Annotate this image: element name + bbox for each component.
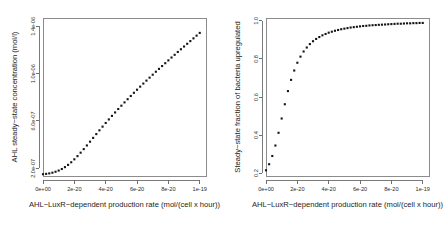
- data-point: [397, 23, 399, 25]
- data-point: [98, 129, 100, 131]
- data-point: [365, 25, 367, 27]
- data-point: [186, 43, 188, 45]
- data-point: [315, 38, 317, 40]
- right-plot-frame: [266, 18, 429, 176]
- left-data-series: [42, 32, 201, 175]
- data-point: [296, 62, 298, 64]
- data-point: [86, 144, 88, 146]
- left-x-tick-label: 0e+00: [35, 186, 51, 192]
- data-point: [422, 22, 424, 24]
- data-point: [287, 90, 289, 92]
- right-x-tick-label: 1e-19: [416, 186, 430, 192]
- data-point: [149, 77, 151, 79]
- data-point: [64, 166, 66, 168]
- data-point: [108, 118, 110, 120]
- data-point: [375, 24, 377, 26]
- right-x-tick-label: 4e-20: [322, 186, 336, 192]
- left-x-tick-label: 1e-19: [193, 186, 207, 192]
- data-point: [48, 172, 50, 174]
- data-point: [412, 22, 414, 24]
- right-y-tick-label: 1.0: [253, 17, 259, 25]
- data-point: [61, 168, 63, 170]
- data-point: [318, 36, 320, 38]
- data-point: [321, 34, 323, 36]
- left-plot-svg: 0e+002e-204e-206e-208e-201e-192.0e-076.0…: [0, 0, 223, 225]
- data-point: [117, 108, 119, 110]
- left-y-tick-label: 1.4e-06: [30, 17, 36, 36]
- data-point: [378, 24, 380, 26]
- right-y-tick-label: 0.4: [253, 131, 259, 139]
- data-point: [359, 25, 361, 27]
- right-x-tick-label: 2e-20: [290, 186, 304, 192]
- data-point: [325, 33, 327, 35]
- data-point: [387, 23, 389, 25]
- data-point: [393, 23, 395, 25]
- data-point: [51, 172, 53, 174]
- right-y-tick-label: 0.8: [253, 55, 259, 63]
- data-point: [177, 51, 179, 53]
- data-point: [70, 161, 72, 163]
- data-point: [403, 22, 405, 24]
- data-point: [306, 46, 308, 48]
- data-point: [130, 95, 132, 97]
- data-point: [415, 22, 417, 24]
- data-point: [390, 23, 392, 25]
- data-point: [127, 98, 129, 100]
- data-point: [89, 141, 91, 143]
- data-point: [337, 29, 339, 31]
- data-point: [334, 30, 336, 32]
- left-x-tick-label: 6e-20: [130, 186, 144, 192]
- left-plot-frame: [43, 18, 206, 176]
- right-plot-svg: 0e+002e-204e-206e-208e-201e-190.20.40.60…: [223, 0, 446, 225]
- right-y-axis: 0.20.40.60.81.0: [253, 17, 262, 177]
- data-point: [158, 68, 160, 70]
- data-point: [409, 22, 411, 24]
- data-point: [353, 26, 355, 28]
- right-y-axis-title: Steady−state fraction of bacteria upregu…: [233, 21, 242, 172]
- data-point: [102, 126, 104, 128]
- data-point: [381, 24, 383, 26]
- right-y-tick-label: 0.2: [253, 169, 259, 177]
- data-point: [114, 111, 116, 113]
- left-y-axis: 2.0e-076.0e-071.0e-061.4e-06: [30, 17, 39, 178]
- data-point: [350, 26, 352, 28]
- data-point: [384, 23, 386, 25]
- data-point: [189, 40, 191, 42]
- data-point: [340, 28, 342, 30]
- data-point: [268, 163, 270, 165]
- right-y-tick-label: 0.6: [253, 93, 259, 101]
- panel-right: 0e+002e-204e-206e-208e-201e-190.20.40.60…: [223, 0, 446, 225]
- data-point: [284, 103, 286, 105]
- data-point: [133, 92, 135, 94]
- right-data-series: [265, 22, 424, 171]
- data-point: [183, 45, 185, 47]
- data-point: [105, 122, 107, 124]
- data-point: [111, 115, 113, 117]
- data-point: [174, 54, 176, 56]
- left-x-axis-title: AHL−LuxR−dependent production rate (mol/…: [29, 200, 221, 209]
- right-x-tick-label: 6e-20: [353, 186, 367, 192]
- data-point: [343, 28, 345, 30]
- data-point: [180, 48, 182, 50]
- data-point: [136, 89, 138, 91]
- data-point: [328, 32, 330, 34]
- data-point: [356, 26, 358, 28]
- data-point: [372, 24, 374, 26]
- data-point: [196, 35, 198, 37]
- right-x-axis-title: AHL−LuxR−dependent production rate (mol/…: [252, 200, 444, 209]
- left-x-axis: 0e+002e-204e-206e-208e-201e-19: [35, 180, 207, 192]
- left-x-tick-label: 2e-20: [67, 186, 81, 192]
- right-x-axis: 0e+002e-204e-206e-208e-201e-19: [258, 180, 430, 192]
- right-x-tick-label: 0e+00: [258, 186, 274, 192]
- data-point: [312, 40, 314, 42]
- data-point: [152, 74, 154, 76]
- data-point: [155, 71, 157, 73]
- data-point: [73, 158, 75, 160]
- data-point: [164, 62, 166, 64]
- data-point: [92, 137, 94, 139]
- data-point: [274, 144, 276, 146]
- panel-left: 0e+002e-204e-206e-208e-201e-192.0e-076.0…: [0, 0, 223, 225]
- data-point: [265, 169, 267, 171]
- data-point: [331, 31, 333, 33]
- left-y-tick-label: 2.0e-07: [30, 159, 36, 178]
